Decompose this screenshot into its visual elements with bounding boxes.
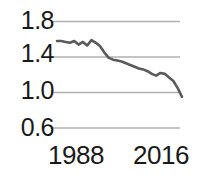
data-line: [57, 40, 182, 97]
y-axis-tick-label-4: 0.6: [21, 115, 54, 140]
y-axis-tick-label-1: 1.8: [21, 8, 54, 33]
gridlines-group: [52, 22, 180, 129]
x-axis-tick-label-1988: 1988: [48, 141, 104, 169]
x-axis-tick-label-2016: 2016: [133, 141, 189, 169]
data-line-group: [57, 40, 182, 97]
chart-container: 1.8 1.4 1.0 0.6 1988 2016: [0, 0, 211, 175]
y-axis-tick-label-3: 1.0: [21, 78, 54, 103]
plot-area: 1.8 1.4 1.0 0.6 1988 2016: [0, 0, 211, 175]
y-axis-tick-label-2: 1.4: [21, 41, 54, 66]
